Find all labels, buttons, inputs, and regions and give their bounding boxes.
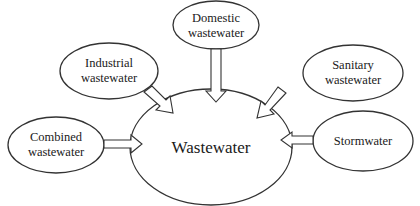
node-combined: Combined wastewater	[8, 117, 104, 173]
arrow-industrial-to-wastewater	[144, 86, 173, 113]
domestic-ellipse	[173, 1, 259, 49]
combined-label-line1: Combined	[30, 130, 83, 144]
node-domestic: Domestic wastewater	[173, 1, 259, 49]
arrow-sanitary-to-wastewater	[257, 87, 286, 118]
domestic-label-line2: wastewater	[188, 26, 245, 40]
industrial-label-line2: wastewater	[81, 71, 138, 85]
sanitary-label-line1: Sanitary	[332, 58, 374, 72]
combined-label-line2: wastewater	[28, 145, 85, 159]
arrow-domestic-to-wastewater	[206, 49, 226, 102]
node-industrial: Industrial wastewater	[60, 43, 158, 99]
industrial-label-line1: Industrial	[85, 56, 133, 70]
stormwater-label: Stormwater	[334, 134, 393, 148]
wastewater-label: Wastewater	[172, 138, 251, 157]
sanitary-label-line2: wastewater	[325, 73, 382, 87]
domestic-label-line1: Domestic	[192, 11, 240, 25]
node-stormwater: Stormwater	[313, 111, 413, 171]
wastewater-sources-diagram: Wastewater Domestic wastewater Industria…	[0, 0, 420, 206]
node-sanitary: Sanitary wastewater	[303, 45, 403, 101]
